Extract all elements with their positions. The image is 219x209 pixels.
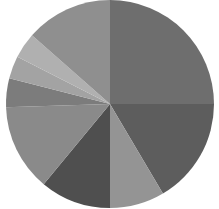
- pie-chart-figure: [0, 0, 219, 209]
- pie-chart-canvas: [0, 0, 219, 209]
- pie-slices-group: [6, 0, 214, 208]
